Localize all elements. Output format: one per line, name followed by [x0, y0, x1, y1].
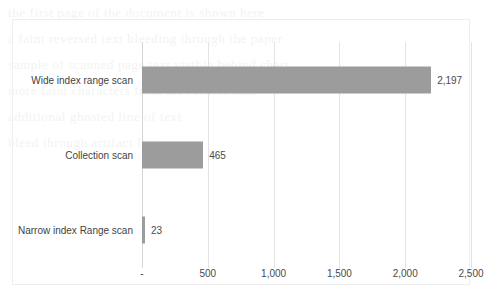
bar-value-label: 23 — [151, 225, 162, 236]
x-tick-label: - — [140, 268, 143, 279]
bar-value-label: 2,197 — [437, 74, 462, 85]
category-label: Wide index range scan — [31, 74, 133, 85]
plot-area: Wide index range scan2,197Collection sca… — [142, 42, 471, 268]
x-tick-label: 2,000 — [393, 268, 418, 279]
bar[interactable] — [142, 141, 203, 168]
x-tick-label: 1,500 — [327, 268, 352, 279]
x-axis-tick-labels: -5001,0001,5002,0002,500 — [142, 268, 471, 288]
category-label: Collection scan — [65, 149, 133, 160]
x-tick-label: 2,500 — [458, 268, 483, 279]
x-tick-label: 1,000 — [261, 268, 286, 279]
category-label: Narrow index Range scan — [18, 225, 133, 236]
x-tick-label: 500 — [199, 268, 216, 279]
bar[interactable] — [142, 66, 431, 93]
bar-chart-figure: Wide index range scan2,197Collection sca… — [12, 19, 470, 285]
bar-row: Collection scan465 — [142, 117, 471, 192]
bar-value-label: 465 — [209, 149, 226, 160]
bar-row: Wide index range scan2,197 — [142, 42, 471, 117]
bar[interactable] — [142, 217, 145, 244]
bar-row: Narrow index Range scan23 — [142, 193, 471, 268]
gridline-2500 — [471, 42, 472, 268]
